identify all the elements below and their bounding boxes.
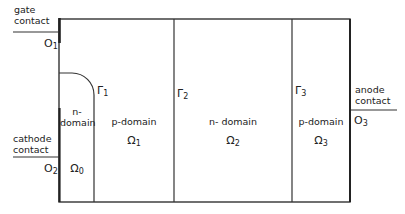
domain-omega1-label: p-domain [94, 116, 174, 127]
anode-contact-line2: contact [355, 95, 391, 106]
domain-omega0-label: n- domain [60, 106, 94, 128]
anode-contact-label: anode contact [355, 84, 391, 106]
domain-omega0-line2: domain [60, 117, 94, 128]
omega0-sub: 0 [79, 167, 84, 176]
node-o1: O1 [44, 38, 58, 53]
omega3-symbol: Ω [314, 134, 322, 147]
gamma3-label: Γ3 [295, 85, 306, 100]
omega1-sub: 1 [136, 139, 141, 148]
node-o1-sub: 1 [53, 42, 58, 51]
omega2-sub: 2 [235, 139, 240, 148]
omega1-symbol: Ω [127, 134, 135, 147]
omega2-symbol: Ω [226, 134, 234, 147]
node-o3: O3 [354, 115, 368, 130]
omega3-sub: 3 [323, 139, 328, 148]
node-o1-symbol: O [44, 37, 53, 50]
cathode-contact-line2: contact [13, 144, 51, 155]
gamma1-label: Γ1 [97, 85, 108, 100]
node-o2-sub: 2 [53, 167, 58, 176]
node-o3-symbol: O [354, 114, 363, 127]
anode-contact-line1: anode [355, 84, 391, 95]
gate-contact-label: gate contact [14, 4, 50, 26]
omega0-symbol: Ω [70, 162, 78, 175]
omega3-symbol-label: Ω3 [292, 135, 350, 150]
domain-omega0-line1: n- [60, 106, 94, 117]
gamma2-sub: 2 [183, 92, 188, 101]
omega1-symbol-label: Ω1 [94, 135, 174, 150]
device-outline [59, 19, 350, 202]
gate-contact-line2: contact [14, 15, 50, 26]
node-o3-sub: 3 [363, 119, 368, 128]
gate-contact-line1: gate [14, 4, 50, 15]
domain-omega3-label: p-domain [292, 116, 350, 127]
cathode-contact-line1: cathode [13, 133, 51, 144]
domain-omega2-label: n- domain [174, 116, 292, 127]
gamma3-sub: 3 [301, 89, 306, 98]
gamma1-sub: 1 [103, 89, 108, 98]
interface-gamma1 [59, 73, 94, 202]
node-o2: O2 [44, 163, 58, 178]
gamma2-label: Γ2 [177, 88, 188, 103]
node-o2-symbol: O [44, 162, 53, 175]
omega0-symbol-label: Ω0 [60, 163, 94, 178]
omega2-symbol-label: Ω2 [174, 135, 292, 150]
cathode-contact-label: cathode contact [13, 133, 51, 155]
